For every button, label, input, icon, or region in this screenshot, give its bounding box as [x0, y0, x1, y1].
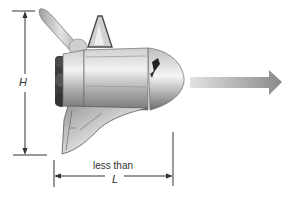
right-arrow-icon [190, 70, 282, 95]
height-dimension [12, 11, 47, 155]
height-label: H [19, 76, 27, 88]
space-shuttle [39, 9, 184, 154]
diagram-canvas: H less than L [0, 0, 301, 200]
length-label: L [109, 173, 121, 185]
length-label-prefix: less than [93, 160, 133, 171]
